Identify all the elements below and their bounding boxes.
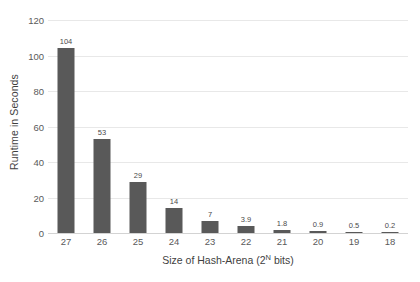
bar[interactable]	[202, 221, 219, 233]
x-axis-title-tail: bits)	[271, 254, 294, 266]
bar-value-label: 53	[98, 128, 106, 137]
bar-value-label: 1.8	[277, 219, 287, 228]
bar-chart: Runtime in Seconds 020406080100120 10453…	[0, 0, 420, 282]
y-tick-label: 0	[4, 228, 44, 239]
x-tick-label: 20	[313, 236, 324, 247]
x-tick-label: 22	[241, 236, 252, 247]
bar[interactable]	[274, 230, 291, 233]
bar[interactable]	[58, 48, 75, 233]
y-axis-tick-labels: 020406080100120	[0, 20, 44, 233]
bar-slot: 1.8	[264, 20, 300, 233]
bar[interactable]	[346, 232, 363, 234]
x-axis-title: Size of Hash-Arena (2N bits)	[48, 254, 408, 266]
bar[interactable]	[382, 232, 399, 234]
bar-slot: 0.9	[300, 20, 336, 233]
plot-area: 10453291473.91.80.90.50.2	[48, 20, 408, 233]
x-tick-label: 21	[277, 236, 288, 247]
x-tick-label: 25	[133, 236, 144, 247]
x-tick-label: 26	[97, 236, 108, 247]
x-axis-tick-labels: 27262524232221201918	[48, 236, 408, 252]
x-tick-label: 23	[205, 236, 216, 247]
bar-value-label: 0.5	[349, 221, 359, 230]
x-tick-label: 18	[385, 236, 396, 247]
y-tick-label: 20	[4, 192, 44, 203]
bar-value-label: 14	[170, 197, 178, 206]
bar[interactable]	[94, 139, 111, 233]
y-tick-label: 120	[4, 15, 44, 26]
bar-slot: 3.9	[228, 20, 264, 233]
x-axis-title-main: Size of Hash-Arena (2	[162, 254, 265, 266]
bar-value-label: 104	[60, 37, 73, 46]
y-tick-label: 100	[4, 50, 44, 61]
bar-slot: 0.5	[336, 20, 372, 233]
y-tick-label: 60	[4, 121, 44, 132]
bar-value-label: 3.9	[241, 215, 251, 224]
bar[interactable]	[130, 182, 147, 233]
bar[interactable]	[166, 208, 183, 233]
x-tick-label: 19	[349, 236, 360, 247]
bar-slot: 104	[48, 20, 84, 233]
bar-slot: 0.2	[372, 20, 408, 233]
bar-value-label: 7	[208, 210, 212, 219]
y-tick-label: 80	[4, 86, 44, 97]
gridline	[48, 233, 408, 234]
bar-value-label: 0.2	[385, 221, 395, 230]
bar-value-label: 29	[134, 171, 142, 180]
bar-slot: 7	[192, 20, 228, 233]
bar[interactable]	[238, 226, 255, 233]
x-tick-label: 24	[169, 236, 180, 247]
bar-slot: 53	[84, 20, 120, 233]
bar-slot: 29	[120, 20, 156, 233]
bar-value-label: 0.9	[313, 220, 323, 229]
x-tick-label: 27	[61, 236, 72, 247]
bar-series: 10453291473.91.80.90.50.2	[48, 20, 408, 233]
bar-slot: 14	[156, 20, 192, 233]
bar[interactable]	[310, 231, 327, 233]
y-tick-label: 40	[4, 157, 44, 168]
